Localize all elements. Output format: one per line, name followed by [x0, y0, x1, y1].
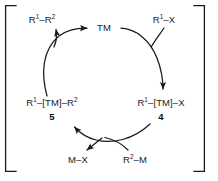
- node-label-metal-halide-byproduct: M–X: [68, 155, 88, 165]
- compound-number-4: 4: [158, 112, 163, 122]
- reductive-elimination-arrow: [44, 28, 87, 96]
- node-label-complex-5: R1–[TM]–R2: [26, 98, 77, 108]
- compound-number-5: 5: [49, 112, 54, 122]
- square-bracket-right: [194, 6, 204, 172]
- square-bracket-left: [6, 6, 16, 172]
- node-label-product: R1–R2: [29, 15, 56, 25]
- halide-feed-line: [152, 28, 165, 47]
- reaction-scheme-diagram: TM R1–R2 R1–X R1–[TM]–R2 5 R1–[TM]–X 4 M…: [0, 0, 218, 181]
- node-label-organometallic-reagent: R2–M: [123, 155, 147, 165]
- catalyst-label-tm: TM: [97, 23, 111, 33]
- product-release-arrow: [54, 30, 57, 48]
- transmetalation-arrow: [75, 124, 151, 141]
- node-label-substrate-halide: R1–X: [153, 15, 175, 25]
- node-label-complex-4: R1–[TM]–X: [137, 98, 184, 108]
